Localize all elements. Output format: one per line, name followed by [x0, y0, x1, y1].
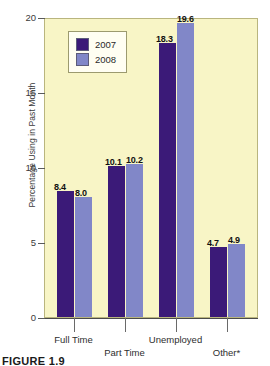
x-axis-label-full-time: Full Time [54, 334, 93, 345]
legend-swatch-2008-icon [76, 53, 89, 66]
x-tick-mark [176, 318, 177, 332]
y-tick-label: 15 [2, 87, 36, 98]
y-tick-label: 20 [2, 12, 36, 23]
y-tick-mark [38, 318, 45, 319]
legend-item: 2007 [76, 37, 116, 52]
x-tick-mark [227, 318, 228, 332]
y-tick-mark [38, 93, 45, 94]
bar-2008 [75, 197, 92, 317]
y-tick-label: 5 [2, 237, 36, 248]
y-tick-mark [38, 168, 45, 169]
bar-group [210, 19, 245, 317]
y-tick-label: 10 [2, 162, 36, 173]
x-tick-mark [74, 318, 75, 332]
bar-2008 [126, 164, 143, 317]
y-tick-mark [38, 243, 45, 244]
legend-label-2007: 2007 [95, 39, 116, 50]
plot-area: 8.48.010.110.218.319.64.74.9 2007 2008 [44, 18, 258, 318]
figure-container: Percentage Using in Past Month 05101520 … [0, 0, 270, 366]
legend: 2007 2008 [68, 31, 127, 73]
bar-2007 [108, 166, 125, 318]
bar-2007 [159, 43, 176, 318]
legend-label-2008: 2008 [95, 54, 116, 65]
x-axis-label-unemployed: Unemployed [149, 334, 202, 345]
legend-item: 2008 [76, 52, 116, 67]
bar-group [159, 19, 194, 317]
y-axis-title: Percentage Using in Past Month [27, 50, 37, 240]
bar-2008 [177, 23, 194, 317]
y-tick-label: 0 [2, 312, 36, 323]
x-axis-label-part-time: Part Time [104, 347, 145, 358]
figure-caption: FIGURE 1.9 [2, 355, 65, 366]
bar-2007 [210, 247, 227, 318]
x-axis-label-other: Other* [213, 347, 240, 358]
bar-2007 [57, 191, 74, 317]
y-tick-mark [38, 18, 45, 19]
bar-2008 [228, 244, 245, 318]
legend-swatch-2007-icon [76, 38, 89, 51]
x-tick-mark [125, 318, 126, 332]
